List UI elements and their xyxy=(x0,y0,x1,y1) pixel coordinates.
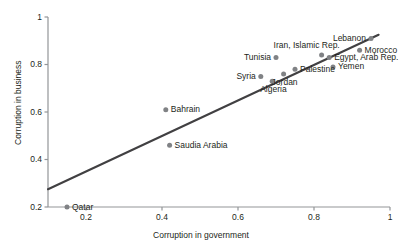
y-tick-label: 0.4 xyxy=(14,155,42,164)
point-label: Palestine xyxy=(300,65,335,74)
data-point xyxy=(258,74,263,79)
point-label: Iran, Islamic Rep. xyxy=(274,41,340,50)
point-label: Tunisia xyxy=(244,53,271,62)
point-label: Lebanon xyxy=(333,34,366,43)
point-label: Yemen xyxy=(338,62,364,71)
data-point xyxy=(274,55,279,60)
point-label: Jordan xyxy=(272,78,298,87)
y-tick-label: 0.2 xyxy=(14,203,42,212)
data-point xyxy=(327,55,332,60)
x-tick-label: 0.2 xyxy=(56,213,116,222)
data-point xyxy=(65,205,70,210)
data-point xyxy=(369,36,374,41)
y-tick-label: 1 xyxy=(14,13,42,22)
data-point xyxy=(319,53,324,58)
point-label: Morocco xyxy=(365,46,398,55)
data-points xyxy=(65,36,374,210)
x-tick-label: 0.8 xyxy=(284,213,344,222)
scatter-chart: 0.20.40.60.81 0.20.40.60.81 QatarSaudia … xyxy=(0,0,402,247)
data-point xyxy=(293,67,298,72)
y-axis-title: Corruption in business xyxy=(14,60,23,145)
x-tick-label: 1 xyxy=(360,213,402,222)
x-tick-label: 0.6 xyxy=(208,213,268,222)
y-axis-title-wrapper: Corruption in business xyxy=(7,65,25,145)
data-point xyxy=(281,72,286,77)
x-axis-title: Corruption in government xyxy=(0,231,402,240)
point-label: Bahrain xyxy=(171,105,200,114)
point-label: Syria xyxy=(236,72,255,81)
x-tick-label: 0.4 xyxy=(132,213,192,222)
data-point xyxy=(167,143,172,148)
point-label: Saudia Arabia xyxy=(175,141,228,150)
data-point xyxy=(163,107,168,112)
point-label: Qatar xyxy=(72,203,93,212)
